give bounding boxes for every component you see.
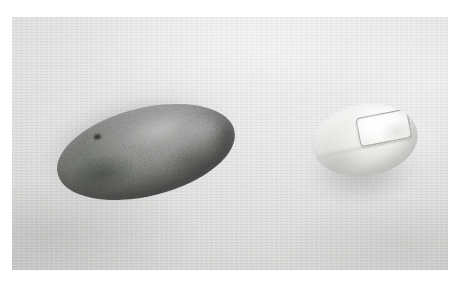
soap-label-text (355, 108, 413, 148)
stone-pit (93, 134, 101, 141)
photograph (12, 17, 448, 270)
photo-page (0, 0, 460, 286)
soap-label-panel (355, 108, 413, 148)
